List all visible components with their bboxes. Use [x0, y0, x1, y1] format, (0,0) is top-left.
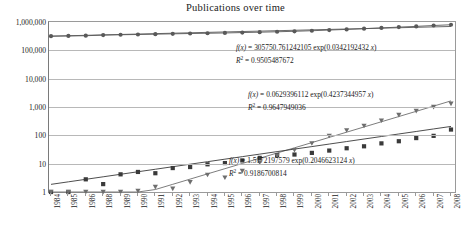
data-point-all-publications — [275, 30, 279, 34]
x-tick — [224, 193, 225, 196]
data-point-all-publications — [84, 34, 88, 38]
gridline — [49, 79, 455, 80]
data-point-triangle-series — [170, 187, 175, 192]
eq2-body: = 0.0629396112 exp(0.4237344957 — [258, 90, 367, 99]
x-tick-label: 1991 — [158, 194, 166, 208]
x-tick-label: 1995 — [228, 194, 236, 208]
x-tick — [102, 193, 103, 196]
x-tick-label: 2007 — [437, 194, 445, 208]
x-tick — [433, 193, 434, 196]
y-axis-labels: 1,000,000100,00010,0001,000100101 — [0, 21, 46, 193]
x-tick-label: 2001 — [332, 194, 340, 208]
data-point-all-publications — [397, 25, 401, 29]
data-point-all-publications — [362, 27, 366, 31]
x-tick-label: 1994 — [211, 194, 219, 208]
y-tick-label: 1 — [42, 188, 46, 197]
data-point-square-series — [101, 182, 105, 186]
data-point-square-series — [379, 141, 383, 145]
data-point-all-publications — [136, 32, 140, 36]
data-point-all-publications — [118, 33, 122, 37]
data-point-square-series — [84, 177, 88, 181]
x-tick-label: 1998 — [280, 194, 288, 208]
x-tick — [259, 193, 260, 196]
x-tick-label: 1999 — [297, 194, 305, 208]
data-point-all-publications — [153, 32, 157, 36]
x-tick — [207, 193, 208, 196]
data-point-square-series — [449, 127, 453, 131]
x-tick-label: 1990 — [141, 194, 149, 208]
annotation-equation-2: f(x) = 0.0629396112 exp(0.4237344957 x) … — [248, 90, 373, 113]
x-tick-label: 1985 — [71, 194, 79, 208]
data-point-all-publications — [101, 33, 105, 37]
x-tick — [328, 193, 329, 196]
data-point-square-series — [171, 166, 175, 170]
y-tick-label: 1,000 — [29, 103, 46, 112]
data-point-triangle-series — [292, 148, 297, 153]
x-tick — [241, 193, 242, 196]
y-tick-label: 100,000 — [21, 46, 46, 55]
x-tick-label: 1993 — [193, 194, 201, 208]
x-tick-label: 2002 — [350, 194, 358, 208]
data-point-all-publications — [327, 28, 331, 32]
data-point-all-publications — [171, 32, 175, 36]
x-tick — [293, 193, 294, 196]
chart-root: Publications over time 1,000,000100,0001… — [0, 0, 471, 231]
x-tick-label: 2006 — [419, 194, 427, 208]
x-tick-label: 2003 — [367, 194, 375, 208]
eq1-r2-value: = 0.9505487672 — [243, 56, 293, 65]
annotation-equation-1: f(x) = 305750.761242105 exp(0.0342192432… — [236, 43, 376, 66]
data-point-square-series — [310, 151, 314, 155]
data-point-all-publications — [414, 24, 418, 28]
data-point-all-publications — [188, 31, 192, 35]
x-tick — [189, 193, 190, 196]
eq3-body: = 1.5172197579 exp(0.2046623124 — [239, 156, 349, 165]
data-point-all-publications — [432, 23, 436, 27]
data-point-all-publications — [240, 30, 244, 34]
x-tick-label: 2000 — [315, 194, 323, 208]
annotation-equation-3: f(x) = 1.5172197579 exp(0.2046623124 x) … — [229, 156, 355, 179]
x-tick — [363, 193, 364, 196]
eq1-body: = 305750.761242105 exp(0.0342192432 — [246, 43, 370, 52]
data-point-all-publications — [223, 31, 227, 35]
data-point-square-series — [345, 146, 349, 150]
x-tick — [450, 193, 451, 196]
data-point-square-series — [188, 165, 192, 169]
data-point-square-series — [414, 136, 418, 140]
data-point-triangle-series — [448, 102, 453, 107]
x-tick — [120, 193, 121, 196]
x-tick-label: 1986 — [89, 194, 97, 208]
data-point-all-publications — [292, 29, 296, 33]
x-tick — [50, 193, 51, 196]
x-tick — [311, 193, 312, 196]
x-tick-label: 1996 — [245, 194, 253, 208]
x-tick — [172, 193, 173, 196]
y-tick-label: 10 — [38, 159, 46, 168]
x-tick-label: 2005 — [402, 194, 410, 208]
x-tick-label: 1992 — [176, 194, 184, 208]
x-tick-label: 1997 — [263, 194, 271, 208]
data-point-all-publications — [205, 31, 209, 35]
x-tick — [346, 193, 347, 196]
eq2-fx: f(x) — [248, 90, 258, 99]
data-point-all-publications — [345, 27, 349, 31]
data-point-square-series — [397, 139, 401, 143]
data-point-square-series — [362, 144, 366, 148]
eq2-r2-value: = 0.9647949036 — [255, 103, 305, 112]
chart-title: Publications over time — [0, 2, 471, 13]
x-tick-label: 1988 — [106, 194, 114, 208]
x-tick — [415, 193, 416, 196]
x-tick — [85, 193, 86, 196]
data-point-triangle-series — [205, 173, 210, 178]
x-axis-labels: 1984198519861988198919901991199219931994… — [48, 194, 456, 231]
y-tick-label: 100 — [35, 131, 46, 140]
eq2-tail: ) — [371, 90, 373, 99]
x-tick — [67, 193, 68, 196]
data-point-all-publications — [258, 30, 262, 34]
data-point-square-series — [136, 170, 140, 174]
data-point-triangle-series — [188, 180, 193, 185]
data-point-all-publications — [379, 26, 383, 30]
x-tick-label: 2008 — [454, 194, 462, 208]
data-point-all-publications — [310, 29, 314, 33]
eq3-r2-value: = 0.9186700814 — [236, 169, 286, 178]
gridline — [49, 135, 455, 136]
